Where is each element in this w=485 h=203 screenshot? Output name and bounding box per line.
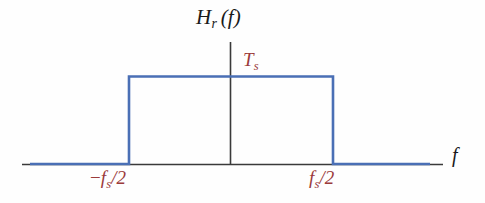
plot-svg <box>0 0 485 203</box>
amplitude-label: Ts <box>243 50 259 72</box>
amplitude-main-symbol: T <box>243 49 254 70</box>
x-axis-label: f <box>452 145 458 165</box>
title-subscript: r <box>211 16 217 31</box>
title-main-symbol: H <box>196 5 211 29</box>
amplitude-subscript: s <box>254 59 259 73</box>
minus-sign: − <box>90 167 101 188</box>
x-tick-label-positive-half-fs: fs/2 <box>309 168 334 190</box>
plot-title: Hr(f) <box>196 7 241 31</box>
plot-background <box>0 0 485 203</box>
figure-canvas: Hr(f) Ts −fs/2 fs/2 f <box>0 0 485 203</box>
title-argument: (f) <box>221 5 241 29</box>
tick-right-divisor: /2 <box>319 167 334 188</box>
tick-left-divisor: /2 <box>111 167 126 188</box>
x-tick-label-negative-half-fs: −fs/2 <box>90 168 126 190</box>
